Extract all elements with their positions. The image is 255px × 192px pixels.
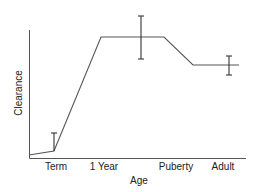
clearance-chart: Term 1 Year Puberty Adult Age Clearance: [0, 0, 255, 192]
y-axis-title: Clearance: [13, 70, 24, 116]
tick-label-1-year: 1 Year: [90, 161, 119, 172]
tick-label-puberty: Puberty: [159, 161, 193, 172]
tick-label-term: Term: [45, 161, 67, 172]
error-bar-term: [51, 133, 57, 151]
clearance-line: [29, 37, 239, 155]
tick-label-adult: Adult: [212, 161, 235, 172]
x-axis-title: Age: [130, 175, 148, 186]
